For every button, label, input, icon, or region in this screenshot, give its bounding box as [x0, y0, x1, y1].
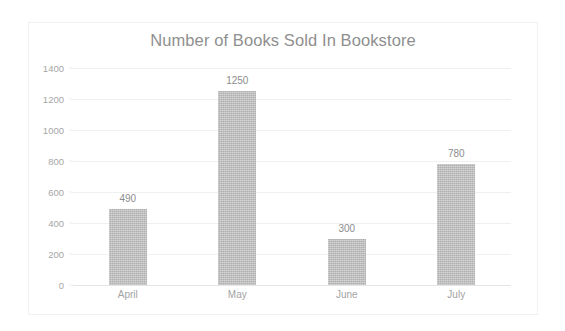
bar-slot: 490 — [73, 68, 183, 285]
bar[interactable] — [328, 239, 366, 286]
y-axis-tick-label: 800 — [48, 156, 64, 167]
bar-slot: 300 — [292, 68, 402, 285]
gridline — [73, 285, 511, 286]
x-axis-tick-label: April — [118, 289, 138, 300]
bar-value-label: 300 — [338, 223, 355, 234]
bar[interactable] — [109, 209, 147, 285]
x-axis-tick-label: May — [228, 289, 247, 300]
bars-layer: 4901250300780 — [73, 68, 511, 285]
chart-title: Number of Books Sold In Bookstore — [29, 31, 537, 50]
y-axis: 0200400600800100012001400 — [29, 68, 73, 285]
bar-value-label: 490 — [119, 193, 136, 204]
bar[interactable] — [437, 164, 475, 285]
y-axis-tick-label: 0 — [59, 280, 64, 291]
bar-slot: 1250 — [183, 68, 293, 285]
bar-value-label: 780 — [448, 148, 465, 159]
chart-card: Number of Books Sold In Bookstore 020040… — [28, 22, 538, 315]
y-axis-tick-label: 1400 — [43, 63, 64, 74]
y-axis-tick-label: 1000 — [43, 125, 64, 136]
bar[interactable] — [218, 91, 256, 285]
bar-slot: 780 — [402, 68, 512, 285]
bar-value-label: 1250 — [226, 75, 248, 86]
y-axis-tick-label: 1200 — [43, 94, 64, 105]
y-axis-tick-label: 400 — [48, 218, 64, 229]
y-axis-tick-label: 600 — [48, 187, 64, 198]
y-axis-tick-label: 200 — [48, 249, 64, 260]
x-axis-tick-label: July — [447, 289, 465, 300]
x-axis-tick-label: June — [336, 289, 358, 300]
x-axis: AprilMayJuneJuly — [73, 289, 511, 309]
